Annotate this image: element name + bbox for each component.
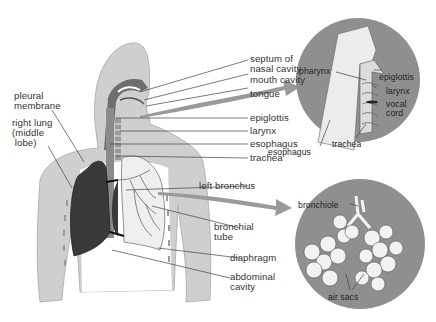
inset-label-air-sacs: air sacs <box>328 293 358 302</box>
label-septum-of-nasal-cavity: septum of nasal cavity <box>250 54 301 74</box>
respiratory-system-diagram: septum of nasal cavity mouth cavity tong… <box>0 0 436 322</box>
label-larynx: larynx <box>250 126 276 136</box>
label-bronchial-tube: bronchial tube <box>214 222 254 242</box>
label-pleural-membrane: pleural membrane <box>14 91 61 111</box>
label-tongue: tongue <box>250 89 280 99</box>
inset-label-esophagus: esophagus <box>268 148 311 157</box>
label-diaphragm: diaphragm <box>230 253 276 263</box>
label-abdominal-cavity: abdominal cavity <box>230 272 275 292</box>
inset-label-pharynx: pharynx <box>299 67 330 76</box>
throat-inset <box>296 18 420 150</box>
inset-label-larynx: larynx <box>386 87 410 96</box>
inset-label-vocal-cord: vocal cord <box>386 100 407 118</box>
label-left-bronchus: left bronchus <box>199 181 255 191</box>
alveoli-inset <box>295 179 425 309</box>
label-epiglottis: epiglottis <box>250 113 289 123</box>
label-mouth-cavity: mouth cavity <box>250 75 305 85</box>
inset-label-bronchiole: bronchiole <box>298 201 339 210</box>
diagram-artwork <box>0 0 436 322</box>
label-right-lung-middle-lobe: right lung (middle lobe) <box>12 118 52 148</box>
inset-label-epiglottis: epiglottis <box>379 73 414 82</box>
inset-label-trachea: trachea <box>332 140 361 149</box>
